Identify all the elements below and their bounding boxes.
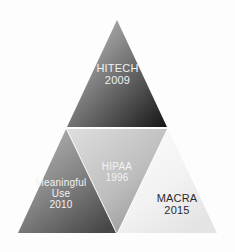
segment-shape-hitech[interactable] xyxy=(67,20,167,127)
triangle-diagram: HITECH 2009 HIPAA 1996 Meaningful Use 20… xyxy=(0,0,235,252)
triangle-diagram-svg xyxy=(0,0,235,252)
